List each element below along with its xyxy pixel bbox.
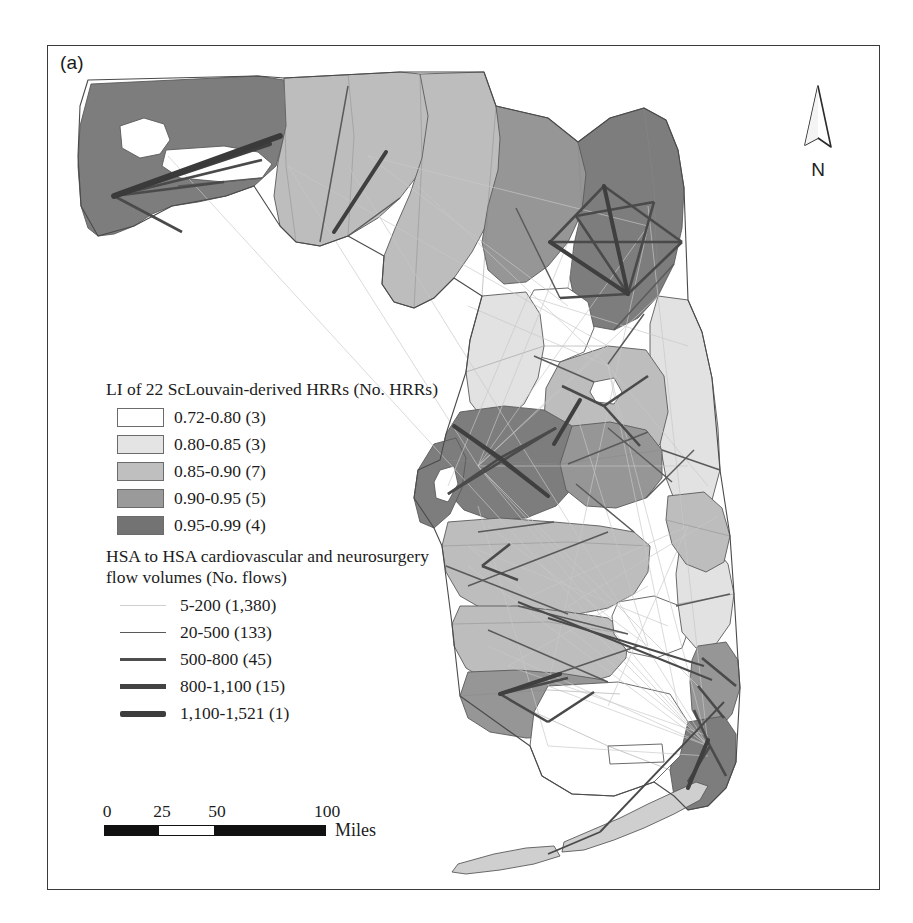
legend-item-label: 5-200 (1,380) (180, 596, 276, 615)
scale-tick: 100 (314, 801, 340, 822)
legend-item-label: 0.85-0.90 (7) (174, 462, 266, 481)
legend-item-flow-3[interactable]: 500-800 (45) (106, 646, 506, 673)
scale-tick: 25 (153, 801, 171, 822)
flow-line-swatch (114, 658, 172, 661)
legend-swatch (117, 462, 164, 481)
flow-line-swatch (114, 605, 172, 606)
legend-item-label: 0.90-0.95 (5) (174, 489, 266, 508)
scale-bar: 0 25 50 100 Miles (104, 801, 434, 836)
legend-item-label: 0.72-0.80 (3) (174, 408, 266, 427)
legend-item-li-1[interactable]: 0.72-0.80 (3) (106, 404, 506, 431)
scale-segment (214, 825, 326, 836)
scale-tick: 0 (103, 801, 112, 822)
hrr-region[interactable] (666, 492, 730, 572)
scale-bar-ticks: 0 25 50 100 (104, 801, 434, 825)
flow-legend-title: HSA to HSA cardiovascular and neurosurge… (106, 546, 458, 588)
scale-bar-graphic: Miles (104, 825, 326, 836)
legend-swatch (117, 516, 164, 535)
legend-item-flow-5[interactable]: 1,100-1,521 (1) (106, 700, 506, 727)
flow-line-swatch (114, 711, 172, 717)
legend-item-flow-4[interactable]: 800-1,100 (15) (106, 673, 506, 700)
legend-item-li-4[interactable]: 0.90-0.95 (5) (106, 485, 506, 512)
legend-item-li-2[interactable]: 0.80-0.85 (3) (106, 431, 506, 458)
scale-tick: 50 (208, 801, 226, 822)
legend-item-li-3[interactable]: 0.85-0.90 (7) (106, 458, 506, 485)
flow-line-swatch (114, 632, 172, 634)
legend-swatch (117, 489, 164, 508)
legend-item-label: 500-800 (45) (180, 650, 272, 669)
north-arrow-label: N (788, 159, 848, 181)
legend-item-flow-1[interactable]: 5-200 (1,380) (106, 592, 506, 619)
legend-item-label: 0.80-0.85 (3) (174, 435, 266, 454)
north-arrow-icon (789, 81, 847, 157)
legend-swatch (117, 435, 164, 454)
hrr-region[interactable] (452, 846, 560, 874)
map-legend: LI of 22 ScLouvain-derived HRRs (No. HRR… (106, 379, 506, 727)
scale-segment (104, 825, 159, 836)
scale-segment (159, 825, 214, 836)
legend-swatch (117, 408, 164, 427)
legend-item-label: 1,100-1,521 (1) (180, 704, 289, 723)
hrr-region[interactable] (530, 682, 688, 796)
legend-item-flow-2[interactable]: 20-500 (133) (106, 619, 506, 646)
figure-panel: (a) (0, 0, 913, 923)
legend-item-label: 800-1,100 (15) (180, 677, 285, 696)
scale-bar-unit: Miles (335, 820, 376, 841)
hrr-region[interactable] (608, 744, 664, 764)
north-arrow: N (788, 81, 848, 186)
hrr-region[interactable] (560, 422, 662, 508)
legend-item-li-5[interactable]: 0.95-0.99 (4) (106, 512, 506, 539)
legend-item-label: 0.95-0.99 (4) (174, 516, 266, 535)
legend-item-label: 20-500 (133) (180, 623, 272, 642)
choropleth-legend-title: LI of 22 ScLouvain-derived HRRs (No. HRR… (106, 379, 506, 400)
flow-line-swatch (114, 684, 172, 688)
map-frame: (a) (47, 45, 880, 890)
